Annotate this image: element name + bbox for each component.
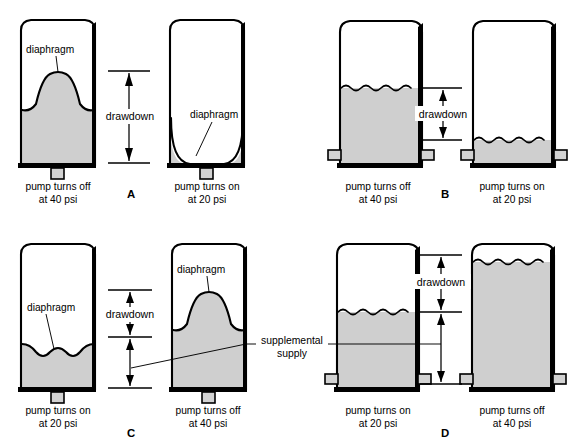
- panel-b-left-caption-line2: at 40 psi: [359, 194, 398, 205]
- figure-root: diaphragm diaphragm: [0, 0, 579, 448]
- panel-c-right-caption-line2: at 40 psi: [189, 418, 228, 429]
- panel-b-right-inlet-nozzle: [461, 150, 474, 160]
- panel-d-right-caption-line1: pump turns off: [480, 405, 545, 416]
- supplemental-supply-label-line2: supply: [277, 348, 308, 359]
- panel-b-letter: B: [441, 188, 449, 200]
- panel-a-right-caption-line2: at 20 psi: [188, 194, 227, 205]
- panel-a-drawdown: drawdown: [104, 71, 156, 163]
- panel-a-left-tank: diaphragm: [18, 19, 96, 179]
- panel-b-left-outlet-nozzle: [421, 150, 434, 160]
- panel-d-right-tank: [460, 244, 566, 392]
- panel-c-left-caption-line2: at 20 psi: [39, 418, 78, 429]
- panel-b: drawdown pump turns off at 40 psi pump t…: [328, 21, 567, 205]
- panel-c: diaphragm diaphragm: [18, 244, 247, 439]
- panel-c-left-caption-line1: pump turns on: [25, 405, 90, 416]
- panel-a-drawdown-label: drawdown: [106, 110, 154, 122]
- panel-c-drawdown: drawdown: [101, 290, 159, 388]
- panel-b-left-caption-line1: pump turns off: [346, 181, 411, 192]
- panel-a-right-caption-line1: pump turns on: [174, 181, 239, 192]
- panel-a-left-caption-line2: at 40 psi: [39, 194, 78, 205]
- panel-a-left-outlet-nozzle: [51, 168, 64, 179]
- panel-c-right-caption-line1: pump turns off: [176, 405, 241, 416]
- diagram-canvas: diaphragm diaphragm: [0, 0, 579, 448]
- panel-b-right-caption-line2: at 20 psi: [493, 194, 532, 205]
- panel-a-left-caption-line1: pump turns off: [26, 181, 91, 192]
- panel-c-left-tank: diaphragm: [18, 244, 96, 403]
- panel-b-right-outlet-nozzle: [554, 150, 567, 160]
- panel-b-right-tank: [461, 21, 567, 168]
- panel-d: drawdown pump turns on at 20 psi pump tu…: [325, 244, 566, 439]
- panel-d-letter: D: [441, 427, 449, 439]
- panel-c-right-tank: diaphragm: [169, 244, 247, 403]
- panel-b-left-inlet-nozzle: [328, 150, 341, 160]
- panel-c-right-outlet-nozzle: [202, 392, 215, 403]
- panel-d-left-outlet-nozzle: [418, 374, 431, 384]
- panel-a-right-tank: diaphragm: [167, 20, 245, 179]
- panel-d-right-inlet-nozzle: [460, 374, 473, 384]
- panel-a-letter: A: [127, 188, 135, 200]
- supplemental-supply-label-line1: supplemental: [261, 335, 323, 346]
- panel-d-drawdown: drawdown: [413, 255, 471, 384]
- panel-c-left-diaphragm-label: diaphragm: [27, 302, 75, 313]
- panel-a-left-diaphragm-label: diaphragm: [26, 44, 74, 55]
- panel-d-right-outlet-nozzle: [553, 374, 566, 384]
- panel-a-right-outlet-nozzle: [200, 168, 213, 179]
- panel-a-right-diaphragm-label: diaphragm: [190, 109, 238, 120]
- panel-a: diaphragm diaphragm: [18, 19, 245, 205]
- panel-d-drawdown-label: drawdown: [417, 276, 465, 288]
- panel-b-left-tank: [328, 21, 434, 168]
- panel-d-right-caption-line2: at 40 psi: [493, 418, 532, 429]
- panel-c-drawdown-label: drawdown: [106, 308, 154, 320]
- panel-c-left-outlet-nozzle: [51, 392, 64, 403]
- panel-b-drawdown-label: drawdown: [419, 108, 467, 120]
- panel-d-left-caption-line2: at 20 psi: [359, 418, 398, 429]
- panel-c-letter: C: [127, 427, 135, 439]
- panel-b-right-caption-line1: pump turns on: [479, 181, 544, 192]
- panel-d-left-inlet-nozzle: [325, 374, 338, 384]
- panel-b-drawdown: drawdown: [415, 88, 471, 140]
- panel-d-left-caption-line1: pump turns on: [345, 405, 410, 416]
- panel-d-left-tank: [325, 244, 431, 392]
- panel-c-right-diaphragm-label: diaphragm: [177, 264, 225, 275]
